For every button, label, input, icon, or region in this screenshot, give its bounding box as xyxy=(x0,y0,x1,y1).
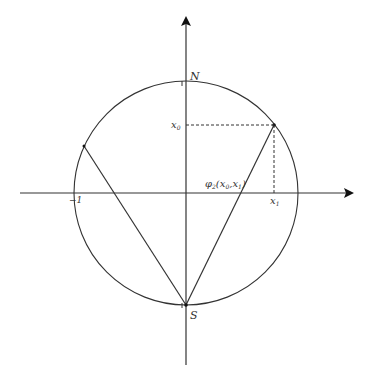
label-south: S xyxy=(190,309,198,322)
point-s xyxy=(184,303,188,307)
label-minus-one: −1 xyxy=(69,195,82,205)
label-x0: x0 xyxy=(171,119,181,131)
point-left xyxy=(83,145,86,148)
label-x1: x1 xyxy=(270,195,279,207)
stereographic-diagram: N S x0 x1 −1 φ2(x0,x1) xyxy=(0,0,366,383)
label-north: N xyxy=(189,70,200,83)
line-s-to-x xyxy=(186,125,274,305)
line-s-to-left-point xyxy=(84,146,186,305)
label-projection: φ2(x0,x1) xyxy=(205,178,246,190)
